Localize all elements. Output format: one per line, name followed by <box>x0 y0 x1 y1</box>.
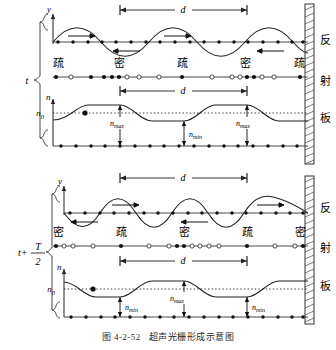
nmin-annotation-t2-1: nmin <box>245 297 280 317</box>
nmin-annotation-t-0: nmin <box>182 121 217 146</box>
nmax-annotation-t-0: nmax <box>104 105 136 146</box>
density-row-t2: 密 疏 密 疏 密 <box>53 225 309 248</box>
plate-label-char-top-0: 反 <box>320 34 331 47</box>
nmax-annotation-t2-0: nmax <box>168 281 200 317</box>
motion-arrows-t <box>68 34 284 53</box>
y-axis-arrow-t2 <box>62 186 66 191</box>
index-marker-dot-t2 <box>90 286 95 291</box>
density-label-t-4: 疏 <box>294 56 305 70</box>
y-axis-label-t: y <box>46 4 51 14</box>
reflecting-plate <box>305 4 314 324</box>
y-axis-label-t2: y <box>57 176 62 186</box>
index-marker-dot-t <box>82 110 87 115</box>
d-span-marker-index-t: d <box>120 84 247 97</box>
plate-label-char-bot-0: 反 <box>320 202 331 215</box>
panel-brace-t <box>34 14 48 146</box>
d-span-marker-wave-t2: d <box>120 171 247 184</box>
plate-label-char-bot-1: 射 <box>320 241 331 255</box>
panel-brace-t2 <box>46 186 60 318</box>
wave-plot-t2: y d <box>57 171 308 227</box>
density-label-t2-2: 密 <box>179 225 190 239</box>
d-span-marker-index-t2: d <box>120 254 247 267</box>
density-label-t2-0: 密 <box>53 225 64 239</box>
density-label-t2-4: 密 <box>295 225 306 239</box>
density-row-t: 疏 密 疏 密 疏 <box>53 56 309 79</box>
n-axis-label-t: n <box>46 92 51 102</box>
plate-label-char-top-2: 板 <box>320 111 331 125</box>
density-label-t-3: 密 <box>240 56 251 70</box>
n-axis-label-t2: n <box>57 262 62 272</box>
n0-label-t2: n0 <box>47 284 56 296</box>
ultrasonic-grating-figure: 反 射 板 反 射 板 t y d <box>0 0 336 350</box>
panel-time-t-plus-half-T: t+ T 2 y d <box>18 171 308 319</box>
density-label-t2-1: 疏 <box>116 225 127 239</box>
time-label-numerator: T <box>35 241 42 252</box>
n0-label-t: n0 <box>36 108 45 120</box>
d-span-marker-wave-t: d <box>120 3 247 16</box>
index-plot-t: d n n0 <box>36 84 308 148</box>
density-label-t2-3: 疏 <box>242 225 253 239</box>
figure-caption-title: 超声光栅形成示意图 <box>149 332 235 342</box>
figure-caption: 图 4-2-52超声光栅形成示意图 <box>0 330 336 343</box>
density-label-t-0: 疏 <box>53 56 64 70</box>
wave-plot-t: y d <box>46 3 308 56</box>
panel-time-t: t y d <box>26 3 308 148</box>
time-label-t-plus-half-T: t+ T 2 <box>18 241 45 267</box>
density-label-t-1: 密 <box>114 56 125 70</box>
time-label-denominator: 2 <box>36 256 41 267</box>
y-axis-arrow-t <box>51 14 55 19</box>
plate-label-char-top-1: 射 <box>320 74 331 88</box>
n-axis-arrow-t2 <box>62 269 66 274</box>
density-label-t-2: 疏 <box>177 56 188 70</box>
nmax-annotation-t-1: nmax <box>230 105 262 146</box>
nmin-annotation-t2-0: nmin <box>118 297 153 317</box>
figure-caption-number: 图 4-2-52 <box>102 332 141 342</box>
index-plot-t2: d n n0 <box>47 254 308 319</box>
n-axis-arrow-t <box>51 99 55 104</box>
plate-label-char-bot-2: 板 <box>320 279 331 293</box>
time-label-t: t <box>26 75 29 86</box>
time-label-lead: t+ <box>18 247 28 258</box>
